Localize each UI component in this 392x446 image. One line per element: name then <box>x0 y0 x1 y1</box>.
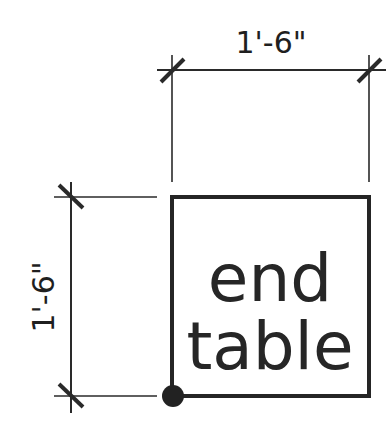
end-table-label-line1: end <box>208 240 332 317</box>
width-dimension-label: 1'-6" <box>235 25 306 60</box>
insertion-point-dot <box>162 385 184 407</box>
depth-dimension-label: 1'-6" <box>26 261 61 332</box>
left-dimension <box>54 182 157 413</box>
end-table-label-line2: table <box>186 308 353 385</box>
floor-plan-drawing: 1'-6" 1'-6" end table <box>0 0 392 446</box>
top-dimension <box>157 55 386 182</box>
